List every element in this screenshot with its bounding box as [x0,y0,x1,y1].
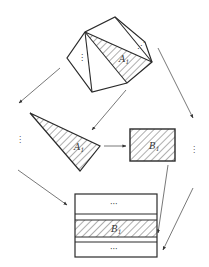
right-side-dots: ⋮ [190,145,198,154]
polygon-right-dots: ⋰ [137,41,145,50]
stacked-box-group: ··· ··· B1 [75,194,157,257]
stack-top-dots: ··· [110,200,118,209]
triangle-a1-group: A1 [30,113,100,171]
left-side-dots: ⋮ [16,135,24,144]
arrow [19,68,60,103]
rect-b1-group: B1 [130,129,175,161]
stack-bottom-dots: ··· [110,245,118,254]
arrow [163,188,193,250]
diagram-canvas: A1 ⋮ ⋰ A1 B1 ··· ··· B1 ⋮ ⋮ [0,0,209,267]
arrow [92,90,126,130]
triangle-a1 [30,113,100,171]
arrow [158,48,193,118]
polygon-group: A1 ⋮ ⋰ [67,17,152,92]
arrow [18,170,67,205]
polygon-left-dots: ⋮ [78,53,86,62]
arrow [158,165,168,233]
